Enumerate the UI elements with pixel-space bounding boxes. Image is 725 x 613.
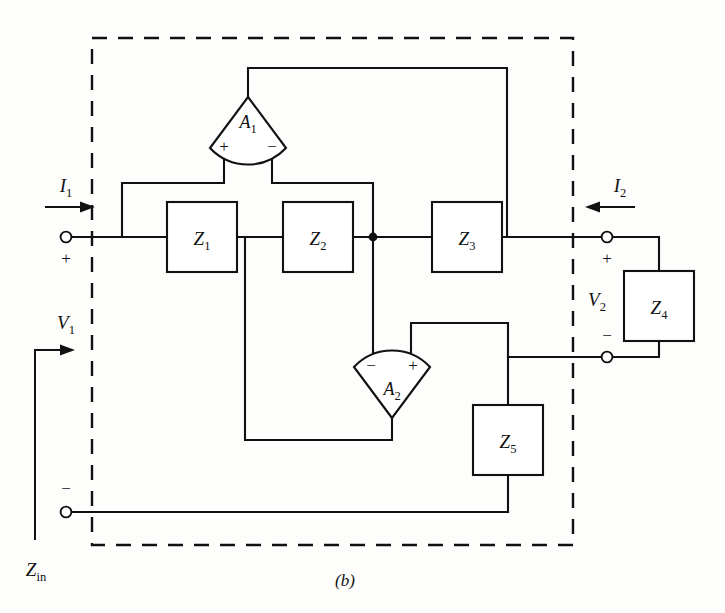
amplifier-a2-minus-sign: − <box>366 356 376 375</box>
voltage-label-v2: V2 <box>588 289 606 314</box>
current-arrow-i2-head <box>585 202 600 213</box>
terminal-output-plus <box>602 232 613 243</box>
current-label-i1: I1 <box>59 175 73 200</box>
terminal-input-minus <box>61 507 72 518</box>
current-label-i2: I2 <box>613 175 627 200</box>
circuit-figure: Z1 Z2 Z3 Z4 Z5 A1 + − A2 − + <box>0 0 725 613</box>
impedance-label-zin: Zin <box>26 559 47 584</box>
output-minus-sign: − <box>602 326 612 345</box>
zin-bracket <box>35 350 60 540</box>
zin-arrow-head <box>60 345 75 356</box>
circuit-schematic-svg: Z1 Z2 Z3 Z4 Z5 A1 + − A2 − + <box>0 0 725 613</box>
junction-dot-z2-z3 <box>369 233 378 242</box>
input-minus-sign: − <box>61 479 71 498</box>
output-plus-sign: + <box>602 249 612 268</box>
wire-v2-plus-to-z4-top <box>607 237 659 271</box>
wire-v2-minus-to-z4-bottom <box>607 341 659 357</box>
input-plus-sign: + <box>61 249 71 268</box>
voltage-label-v1: V1 <box>57 312 75 337</box>
terminal-input-plus <box>61 232 72 243</box>
amplifier-a1-minus-sign: − <box>267 137 277 156</box>
figure-caption: (b) <box>335 571 355 590</box>
terminal-output-minus <box>602 352 613 363</box>
amplifier-a2-plus-sign: + <box>408 356 418 375</box>
amplifier-a1-plus-sign: + <box>219 137 229 156</box>
